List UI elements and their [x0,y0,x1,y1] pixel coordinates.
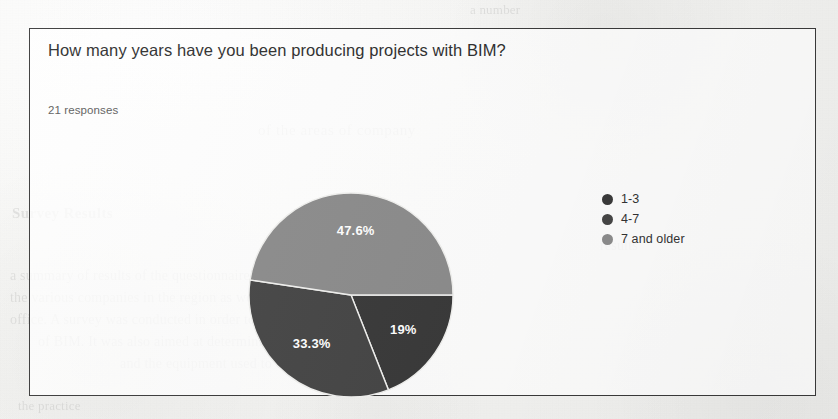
background-bleed-text: a number [470,2,520,18]
legend-swatch-4-7-icon [602,214,613,225]
pie-chart-svg: 19%33.3%47.6% [248,192,454,398]
pie-chart: 19%33.3%47.6% [248,192,454,398]
question-title: How many years have you been producing p… [48,41,506,60]
legend-item-7-and-older[interactable]: 7 and older [602,229,762,249]
response-count-label: 21 responses [48,104,118,116]
pie-slice-value-label: 47.6% [337,223,375,238]
chart-legend: 1-3 4-7 7 and older [602,189,762,249]
form-response-card: How many years have you been producing p… [29,28,816,396]
background-bleed-text: the practice [18,398,81,414]
legend-item-4-7[interactable]: 4-7 [602,209,762,229]
scanned-page-background: a number of the areas of company Survey … [0,0,838,419]
legend-label-7-and-older: 7 and older [621,232,685,246]
legend-item-1-3[interactable]: 1-3 [602,189,762,209]
legend-swatch-1-3-icon [602,194,613,205]
pie-slice-value-label: 19% [390,322,417,337]
pie-slice-value-label: 33.3% [293,336,331,351]
legend-label-1-3: 1-3 [621,192,639,206]
pie-slice-7-and-older[interactable] [250,193,453,295]
legend-label-4-7: 4-7 [621,212,639,226]
legend-swatch-7-and-older-icon [602,234,613,245]
